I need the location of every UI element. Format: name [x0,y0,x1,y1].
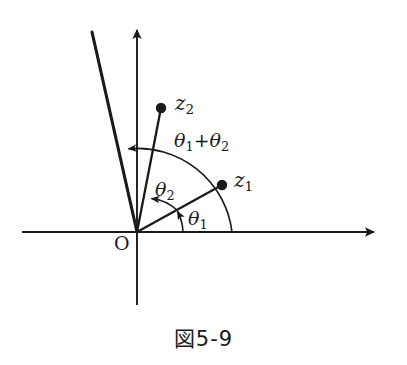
label-theta-sum-operator: + [194,129,210,151]
label-theta-sum-first-subscript: 1 [185,139,193,154]
point-dot-z2 [156,103,166,113]
label-z1-base: z [234,168,245,192]
label-z1: z1 [234,170,253,193]
ray-product [92,32,137,232]
label-theta-sum-second-base: θ [210,129,221,151]
point-dot-z1 [217,180,227,190]
label-theta1-subscript: 1 [199,217,207,232]
figure-container: z2 z1 θ1+θ2 θ2 θ1 O 図5-9 [0,0,407,365]
label-theta2-base: θ [155,178,166,200]
label-theta-sum-first-base: θ [174,129,185,151]
label-theta2-subscript: 2 [166,188,174,203]
label-z2-subscript: 2 [186,101,195,117]
label-z2-base: z [175,91,186,115]
label-theta1-base: θ [188,207,199,229]
label-theta2: θ2 [155,180,175,203]
arc-theta1 [178,212,184,233]
label-theta-sum: θ1+θ2 [174,131,229,154]
label-theta-sum-second-subscript: 2 [221,139,229,154]
label-z1-subscript: 1 [245,178,254,194]
complex-plane-diagram [0,0,407,365]
label-origin: O [114,234,130,253]
label-theta1: θ1 [188,209,208,232]
label-z2: z2 [175,93,194,116]
ray-to-z1 [137,185,222,232]
ray-to-z2 [137,108,161,232]
figure-caption: 図5-9 [0,322,407,352]
